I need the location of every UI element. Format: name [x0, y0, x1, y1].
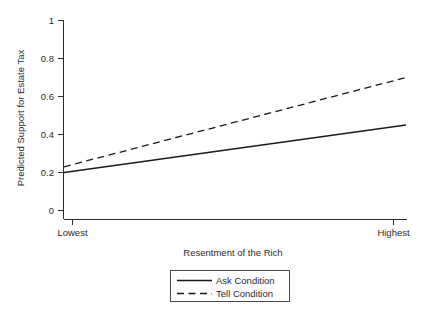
y-axis-title: Predicted Support for Estate Tax	[15, 49, 26, 186]
y-tick-label: 0.4	[41, 129, 54, 140]
y-tick-label: 0	[49, 205, 54, 216]
y-tick-label: 0.2	[41, 167, 54, 178]
legend-label-tell-condition: Tell Condition	[216, 288, 273, 299]
legend-label-ask-condition: Ask Condition	[216, 275, 275, 286]
series-tell-condition	[64, 78, 406, 167]
y-axis-ticks: 1 0.8 0.6 0.4 0.2 0	[41, 15, 64, 216]
y-tick-label: 0.6	[41, 91, 54, 102]
x-tick-label-lowest: Lowest	[57, 227, 87, 238]
chart-legend: Ask Condition Tell Condition	[171, 271, 290, 302]
chart-figure: Predicted Support for Estate Tax 1 0.8 0…	[0, 0, 423, 319]
x-axis-title: Resentment of the Rich	[183, 247, 282, 258]
x-tick-label-highest: Highest	[377, 227, 410, 238]
line-chart-svg: Predicted Support for Estate Tax 1 0.8 0…	[0, 0, 423, 319]
y-tick-label: 1	[49, 15, 54, 26]
x-axis-ticks: Lowest Highest	[57, 220, 410, 239]
y-tick-label: 0.8	[41, 53, 54, 64]
series-ask-condition	[64, 125, 406, 173]
